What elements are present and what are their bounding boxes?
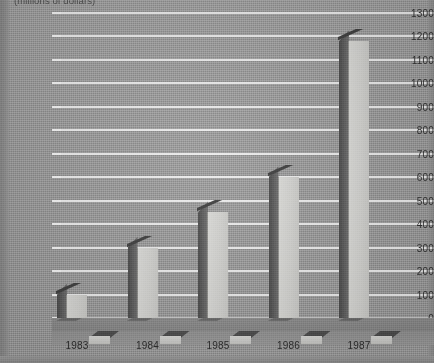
gridline — [52, 200, 434, 202]
bottom-margin-edge — [0, 356, 434, 363]
bar-top-edge — [127, 236, 158, 250]
x-axis-tick-label: 1987 — [336, 340, 382, 351]
y-axis-tick-label: 600 — [388, 172, 434, 183]
y-axis-tickmark — [52, 223, 61, 225]
y-axis-tickmark — [52, 82, 61, 84]
gridline — [52, 247, 434, 249]
gridline — [52, 59, 434, 61]
gridline — [52, 294, 434, 296]
gridline — [52, 35, 434, 37]
x-axis-tick-label: 1986 — [266, 340, 312, 351]
x-axis-tick-label: 1984 — [125, 340, 171, 351]
y-axis-tick-label: 700 — [388, 148, 434, 159]
y-axis-tickmark — [52, 176, 61, 178]
bar-top-edge — [56, 283, 87, 297]
bar-1987 — [348, 41, 369, 318]
y-axis-tick-label: 200 — [388, 266, 434, 277]
gridline — [52, 176, 434, 178]
x-axis-tick-label: 1985 — [195, 340, 241, 351]
y-axis-tickmark — [52, 200, 61, 202]
x-axis-tick-label: 1983 — [54, 340, 100, 351]
y-axis-tick-label: 800 — [388, 125, 434, 136]
bar-1983 — [66, 295, 87, 318]
y-axis-tickmark — [52, 153, 61, 155]
y-axis-tickmark — [52, 12, 61, 14]
bar-1985 — [207, 212, 228, 318]
gridline — [52, 153, 434, 155]
bar-top-edge — [268, 165, 299, 179]
y-axis-tickmark — [52, 247, 61, 249]
y-axis-tick-label: 300 — [388, 242, 434, 253]
y-axis-tickmark — [52, 59, 61, 61]
y-axis-tickmark — [52, 129, 61, 131]
y-axis-tickmark — [52, 270, 61, 272]
bar-1984 — [137, 248, 158, 318]
y-axis-tick-label: 400 — [388, 219, 434, 230]
gridline — [52, 12, 434, 14]
y-axis-tick-label: 900 — [388, 101, 434, 112]
y-axis-tick-label: 1200 — [388, 31, 434, 42]
gridline — [52, 129, 434, 131]
chart-screenshot: (millions of dollars) 010020030040050060… — [0, 0, 434, 363]
gridline — [52, 270, 434, 272]
y-axis-tickmark — [52, 35, 61, 37]
y-axis-tick-label: 1000 — [388, 78, 434, 89]
gridline — [52, 82, 434, 84]
gridline — [52, 106, 434, 108]
bar-1986 — [278, 177, 299, 318]
gridline — [52, 223, 434, 225]
y-axis-tick-label: 1100 — [388, 54, 434, 65]
y-axis-tick-label: 1300 — [388, 8, 434, 19]
bar-top-edge — [338, 29, 369, 43]
y-axis-tickmark — [52, 106, 61, 108]
bar-top-edge — [197, 200, 228, 214]
y-axis-tick-label: 100 — [388, 289, 434, 300]
y-axis-tick-label: 500 — [388, 195, 434, 206]
